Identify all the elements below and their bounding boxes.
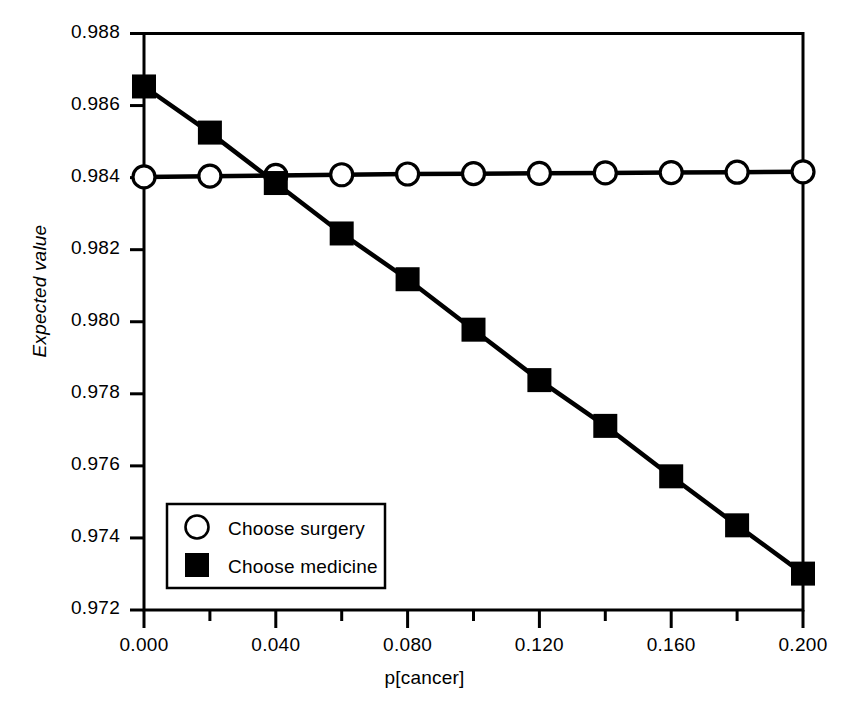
legend: Choose surgery Choose medicine <box>167 504 385 588</box>
data-point-filled-square <box>726 514 748 536</box>
y-tick-label: 0.982 <box>10 237 120 259</box>
x-tick-label: 0.160 <box>611 634 731 656</box>
y-tick-label: 0.976 <box>10 453 120 475</box>
data-point-filled-square <box>660 465 682 487</box>
data-point-filled-square <box>265 172 287 194</box>
data-point-open-circle <box>331 164 353 186</box>
y-tick-label: 0.980 <box>10 309 120 331</box>
data-point-filled-square <box>594 415 616 437</box>
chart-figure: Expected value p[cancer] 0.9720.9740.976… <box>0 0 849 713</box>
legend-label-surgery: Choose surgery <box>228 518 365 539</box>
x-tick-label: 0.000 <box>84 634 204 656</box>
x-tick-label: 0.040 <box>216 634 336 656</box>
data-point-filled-square <box>133 75 155 97</box>
data-point-open-circle <box>199 165 221 187</box>
legend-label-medicine: Choose medicine <box>228 556 378 577</box>
x-axis-label: p[cancer] <box>0 667 849 689</box>
x-tick-marks-minor <box>210 610 737 621</box>
x-tick-label: 0.080 <box>348 634 468 656</box>
data-point-open-circle <box>397 163 419 185</box>
y-axis-label: Expected value <box>29 191 51 391</box>
data-point-open-circle <box>792 161 814 183</box>
y-tick-label: 0.986 <box>10 93 120 115</box>
legend-marker-filled-square-icon <box>186 554 208 576</box>
x-tick-label: 0.120 <box>479 634 599 656</box>
data-point-filled-square <box>528 369 550 391</box>
x-tick-label: 0.200 <box>743 634 849 656</box>
data-point-filled-square <box>792 563 814 585</box>
y-tick-label: 0.988 <box>10 21 120 43</box>
plot-area: Choose surgery Choose medicine <box>0 0 849 713</box>
data-point-open-circle <box>463 163 485 185</box>
legend-marker-open-circle-icon <box>186 516 209 539</box>
data-point-open-circle <box>660 162 682 184</box>
data-point-open-circle <box>726 161 748 183</box>
data-point-open-circle <box>528 162 550 184</box>
y-tick-label: 0.978 <box>10 381 120 403</box>
data-point-filled-square <box>331 222 353 244</box>
data-point-filled-square <box>463 319 485 341</box>
series-choose-surgery <box>133 161 814 188</box>
y-tick-marks <box>130 34 144 611</box>
y-tick-label: 0.984 <box>10 165 120 187</box>
data-point-open-circle <box>133 166 155 188</box>
y-tick-label: 0.972 <box>10 597 120 619</box>
data-point-filled-square <box>199 122 221 144</box>
y-tick-label: 0.974 <box>10 525 120 547</box>
data-point-filled-square <box>397 268 419 290</box>
data-point-open-circle <box>594 162 616 184</box>
